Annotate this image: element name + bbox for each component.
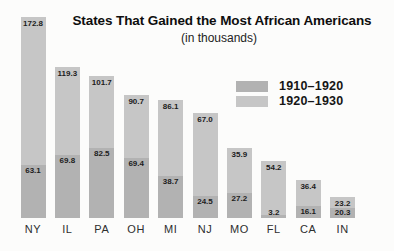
legend-swatch-1910-1920: [236, 81, 268, 92]
value-label-IL-1910-1920: 69.8: [49, 157, 85, 165]
chart-title: States That Gained the Most African Amer…: [0, 13, 394, 28]
x-axis-label-OH: OH: [118, 224, 154, 235]
value-label-OH-1920-1930: 90.7: [118, 98, 154, 106]
x-axis-label-IL: IL: [49, 224, 85, 235]
value-label-IL-1920-1930: 119.3: [49, 70, 85, 78]
value-label-PA-1920-1930: 101.7: [84, 79, 120, 87]
x-axis-label-FL: FL: [256, 224, 292, 235]
bar-MI-1920-1930-segment: [158, 100, 183, 176]
value-label-MO-1910-1920: 27.2: [221, 195, 257, 203]
legend-item-1920-1930: 1920–1930: [236, 94, 343, 108]
value-label-FL-1910-1920: 3.2: [256, 209, 292, 217]
value-label-CA-1920-1930: 36.4: [290, 183, 326, 191]
legend-label-1920-1930: 1920–1930: [279, 94, 343, 108]
x-axis-label-CA: CA: [290, 224, 326, 235]
chart-legend: 1910–1920 1920–1930: [236, 79, 343, 109]
value-label-NY-1910-1920: 63.1: [15, 167, 51, 175]
value-label-IN-1910-1920: 20.3: [325, 209, 361, 217]
x-axis-label-MO: MO: [221, 224, 257, 235]
value-label-MO-1920-1930: 35.9: [221, 151, 257, 159]
bar-NJ-1920-1930-segment: [193, 113, 218, 196]
x-axis-label-PA: PA: [84, 224, 120, 235]
value-label-NJ-1910-1920: 24.5: [187, 198, 223, 206]
x-axis-label-IN: IN: [325, 224, 361, 235]
value-label-FL-1920-1930: 54.2: [256, 164, 292, 172]
bar-PA-1910-1920-segment: [89, 148, 114, 218]
value-label-NJ-1920-1930: 67.0: [187, 116, 223, 124]
chart-subtitle: (in thousands): [0, 31, 394, 45]
value-label-MI-1910-1920: 38.7: [153, 178, 189, 186]
bar-IL-1920-1930-segment: [55, 67, 80, 155]
legend-label-1910-1920: 1910–1920: [279, 79, 343, 93]
value-label-MI-1920-1930: 86.1: [153, 103, 189, 111]
legend-swatch-1920-1930: [236, 96, 268, 107]
value-label-OH-1910-1920: 69.4: [118, 160, 154, 168]
migration-stacked-bar-chart: 172.863.1NY119.369.8IL101.782.5PA90.769.…: [0, 0, 394, 251]
x-axis-label-NJ: NJ: [187, 224, 223, 235]
value-label-IN-1920-1930: 23.2: [325, 200, 361, 208]
x-axis-label-NY: NY: [15, 224, 51, 235]
legend-item-1910-1920: 1910–1920: [236, 79, 343, 93]
value-label-CA-1910-1920: 16.1: [290, 208, 326, 216]
x-axis-label-MI: MI: [153, 224, 189, 235]
value-label-PA-1910-1920: 82.5: [84, 150, 120, 158]
